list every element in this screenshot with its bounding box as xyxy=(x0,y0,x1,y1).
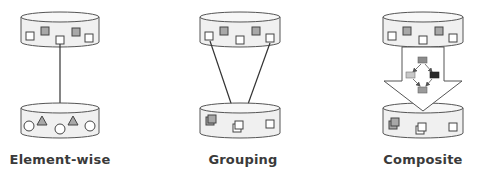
input-collection-cylinder xyxy=(383,12,463,47)
composite-block-arrow xyxy=(384,47,462,111)
output-collection-cylinder xyxy=(200,103,280,138)
sub-node-right xyxy=(430,72,439,78)
element-white-square xyxy=(26,32,34,40)
sub-node-left xyxy=(406,72,415,78)
element-wise-panel xyxy=(21,12,99,138)
composite-panel xyxy=(383,12,463,138)
sub-node-top xyxy=(418,57,427,63)
element-white-circle xyxy=(85,121,95,131)
element-white-square xyxy=(388,32,396,40)
label-composite: Composite xyxy=(363,152,477,167)
grouping-panel xyxy=(200,12,280,138)
element-white-square xyxy=(205,32,213,40)
group-white-stack xyxy=(416,123,426,134)
element-gray-square xyxy=(435,27,443,35)
element-white-circle xyxy=(55,124,65,134)
element-white-square xyxy=(449,123,457,131)
element-white-square xyxy=(236,36,244,44)
element-gray-square xyxy=(41,27,49,35)
element-white-circle xyxy=(24,121,34,131)
element-gray-square xyxy=(220,27,228,35)
element-gray-square xyxy=(252,27,260,35)
label-grouping: Grouping xyxy=(183,152,303,167)
element-white-square xyxy=(266,120,274,128)
sub-node-bottom xyxy=(418,87,427,93)
group-gray-stack xyxy=(206,115,216,125)
label-element-wise: Element-wise xyxy=(0,152,120,167)
element-gray-square xyxy=(403,27,411,35)
element-gray-square xyxy=(72,28,80,36)
element-white-square xyxy=(85,34,93,42)
element-white-square xyxy=(266,34,274,42)
group-white-stack xyxy=(233,121,243,132)
element-white-square xyxy=(449,34,457,42)
output-collection-cylinder xyxy=(21,103,99,138)
element-white-square xyxy=(419,36,427,44)
element-white-square xyxy=(56,36,64,44)
group-gray-stack xyxy=(389,118,399,129)
input-collection-cylinder xyxy=(200,12,280,47)
input-collection-cylinder xyxy=(21,12,99,47)
